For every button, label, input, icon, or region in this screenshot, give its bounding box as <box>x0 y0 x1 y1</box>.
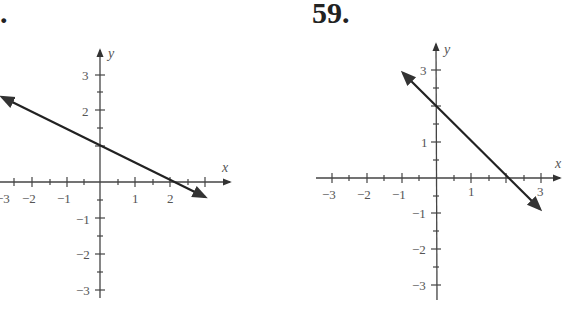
graph-59: −3 −2 −1 1 3 3 1 −1 −2 −3 y x <box>316 42 562 300</box>
svg-text:−2: −2 <box>22 191 36 206</box>
svg-text:y: y <box>442 42 451 57</box>
svg-text:2: 2 <box>82 104 89 119</box>
graphs: −3 −2 −1 1 2 3 2 −1 −2 −3 y x −3 <box>0 0 565 310</box>
svg-text:−2: −2 <box>76 247 90 262</box>
svg-text:−3: −3 <box>76 283 90 298</box>
svg-text:−1: −1 <box>57 191 71 206</box>
svg-text:3: 3 <box>420 63 427 78</box>
graph-58: −3 −2 −1 1 2 3 2 −1 −2 −3 y x <box>0 46 230 298</box>
svg-text:1: 1 <box>468 184 475 199</box>
svg-text:3: 3 <box>82 68 89 83</box>
svg-text:2: 2 <box>167 191 174 206</box>
svg-text:−3: −3 <box>412 278 426 293</box>
svg-text:1: 1 <box>421 135 428 150</box>
svg-text:−1: −1 <box>76 212 90 227</box>
svg-text:−1: −1 <box>412 206 426 221</box>
svg-text:x: x <box>554 156 562 171</box>
svg-text:3: 3 <box>537 184 544 199</box>
svg-text:−2: −2 <box>412 242 426 257</box>
svg-text:y: y <box>106 46 115 61</box>
svg-text:−3: −3 <box>0 191 10 206</box>
svg-text:1: 1 <box>132 191 139 206</box>
svg-text:x: x <box>221 160 229 175</box>
svg-text:−3: −3 <box>322 187 336 202</box>
svg-text:−2: −2 <box>357 187 371 202</box>
svg-text:−1: −1 <box>392 187 406 202</box>
